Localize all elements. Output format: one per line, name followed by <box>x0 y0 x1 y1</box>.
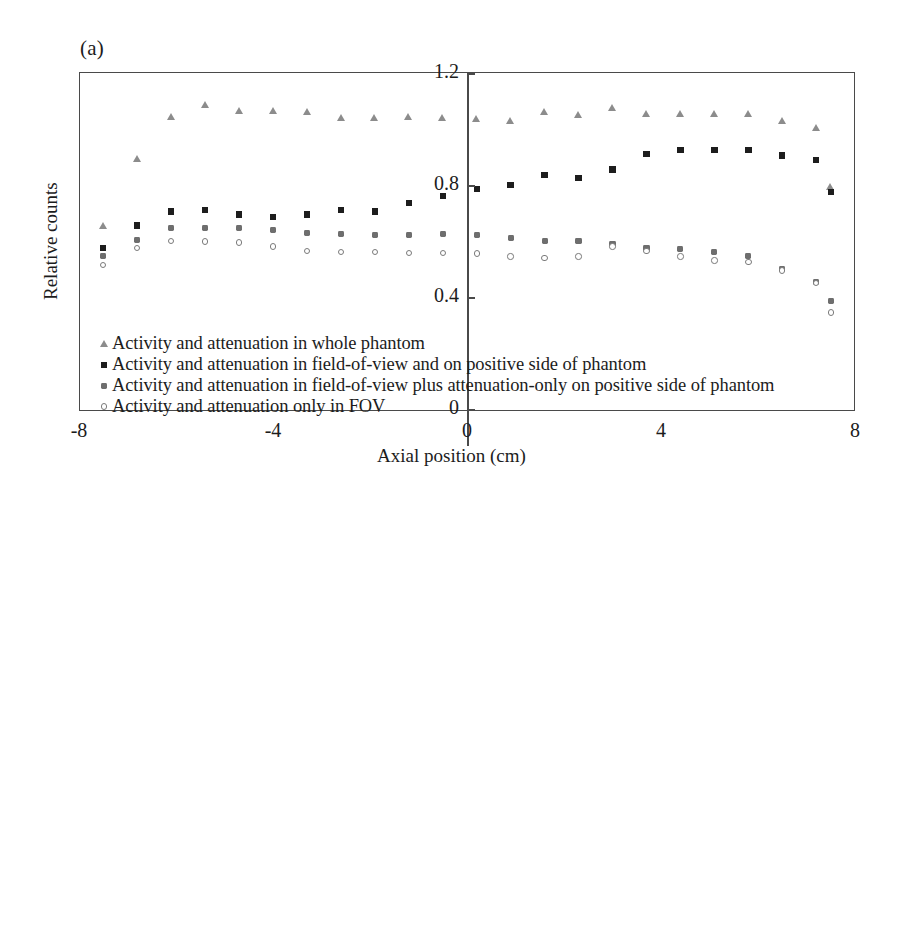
data-point-star <box>813 279 819 285</box>
data-point-star <box>575 238 581 244</box>
panel-a-ytick-0.4 <box>467 297 475 299</box>
data-point-square <box>474 186 480 192</box>
data-point-triangle <box>506 117 514 124</box>
data-point-triangle <box>99 222 107 229</box>
data-point-triangle <box>744 110 752 117</box>
data-point-star <box>643 245 649 251</box>
data-point-triangle <box>201 101 209 108</box>
data-point-square <box>270 214 276 220</box>
panel-a-ytick-label-0.4: 0.4 <box>397 284 459 307</box>
data-point-triangle <box>540 108 548 115</box>
data-point-square <box>779 152 785 158</box>
data-point-star <box>828 298 834 304</box>
data-point-star <box>406 232 412 238</box>
data-point-square <box>236 211 242 217</box>
data-point-triangle <box>826 183 834 190</box>
data-point-star <box>745 253 751 259</box>
data-point-square <box>813 157 819 163</box>
data-point-triangle <box>472 115 480 122</box>
panel-a-x-axis-title: Axial position (cm) <box>0 445 903 467</box>
data-point-square <box>304 211 310 217</box>
data-point-square <box>575 175 581 181</box>
data-point-square <box>745 147 751 153</box>
data-point-triangle <box>167 113 175 120</box>
panel-a-ytick-label-1.2: 1.2 <box>397 60 459 83</box>
data-point-star <box>474 232 480 238</box>
data-point-circle <box>202 238 208 244</box>
data-point-circle <box>541 255 547 261</box>
data-point-triangle <box>404 113 412 120</box>
legend-label: Activity and attenuation in field-of-vie… <box>112 354 646 375</box>
data-point-circle <box>745 259 751 265</box>
data-point-triangle <box>269 107 277 114</box>
data-point-circle <box>440 250 446 256</box>
data-point-triangle <box>337 114 345 121</box>
data-point-star <box>609 241 615 247</box>
data-point-triangle <box>133 155 141 162</box>
data-point-circle <box>643 248 649 254</box>
data-point-square <box>507 182 513 188</box>
data-point-star <box>508 235 514 241</box>
data-point-circle <box>134 245 140 251</box>
data-point-circle <box>270 243 276 249</box>
data-point-circle <box>609 243 615 249</box>
data-point-triangle <box>710 110 718 117</box>
data-point-circle <box>813 280 819 286</box>
data-point-star <box>236 225 242 231</box>
data-point-triangle <box>778 117 786 124</box>
data-point-star <box>542 238 548 244</box>
panel-a-ytick-label-0.8: 0.8 <box>397 172 459 195</box>
data-point-triangle <box>303 108 311 115</box>
data-point-circle <box>168 238 174 244</box>
data-point-square <box>643 151 649 157</box>
panel-a-xtick-label-0: 0 <box>437 419 497 442</box>
data-point-circle <box>372 249 378 255</box>
panel-a-xtick-label-8: 8 <box>825 419 885 442</box>
data-point-star <box>270 227 276 233</box>
data-point-star <box>100 253 106 259</box>
data-point-star <box>304 230 310 236</box>
data-point-circle <box>828 309 834 315</box>
data-point-square <box>609 166 615 172</box>
panel-a-ytick-1.2 <box>467 73 475 75</box>
data-point-triangle <box>608 104 616 111</box>
data-point-triangle <box>235 107 243 114</box>
circle-icon <box>96 403 112 410</box>
data-point-square <box>711 147 717 153</box>
data-point-square <box>541 172 547 178</box>
data-point-circle <box>507 253 513 259</box>
panel-a-xtick-label--8: -8 <box>49 419 109 442</box>
panel-a-y-axis-title: Relative counts <box>40 182 62 300</box>
star-icon <box>96 383 112 389</box>
data-point-square <box>134 222 140 228</box>
data-point-circle <box>236 239 242 245</box>
panel-a-xtick-label-4: 4 <box>631 419 691 442</box>
data-point-triangle <box>812 124 820 131</box>
data-point-triangle <box>370 114 378 121</box>
data-point-star <box>677 246 683 252</box>
data-point-star <box>440 231 446 237</box>
data-point-circle <box>474 250 480 256</box>
legend-label: Activity and attenuation in whole phanto… <box>112 333 425 354</box>
data-point-circle <box>677 253 683 259</box>
data-point-circle <box>779 267 785 273</box>
square-icon <box>96 362 112 368</box>
data-point-square <box>406 200 412 206</box>
data-point-star <box>168 225 174 231</box>
legend-label: Activity and attenuation only in FOV <box>112 396 385 417</box>
panel-a: (a) Relative counts 1.2 0.8 0.4 0 Activi… <box>0 0 903 466</box>
data-point-square <box>677 147 683 153</box>
data-point-circle <box>304 248 310 254</box>
panel-a-label: (a) <box>80 36 104 61</box>
legend-item-fov-and-positive: Activity and attenuation in field-of-vie… <box>96 354 796 375</box>
data-point-star <box>372 232 378 238</box>
data-point-triangle <box>676 110 684 117</box>
data-point-square <box>168 208 174 214</box>
triangle-icon <box>96 340 112 347</box>
data-point-star <box>779 266 785 272</box>
legend-item-fov-plus-attenuation-only: Activity and attenuation in field-of-vie… <box>96 375 796 396</box>
data-point-triangle <box>438 114 446 121</box>
legend-item-whole-phantom: Activity and attenuation in whole phanto… <box>96 333 796 354</box>
legend-item-only-in-fov: Activity and attenuation only in FOV <box>96 396 796 417</box>
data-point-star <box>338 231 344 237</box>
